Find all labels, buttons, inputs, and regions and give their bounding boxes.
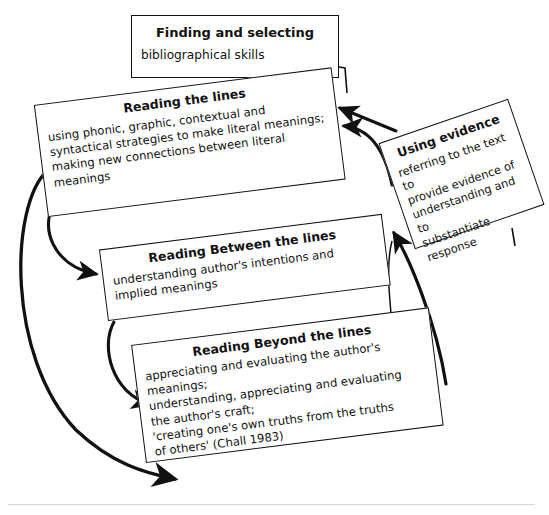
node-body: bibliographical skills bbox=[141, 47, 329, 63]
node-finding-and-selecting[interactable]: Finding and selecting bibliographical sk… bbox=[131, 15, 339, 78]
connector-finding-to-lines bbox=[339, 67, 347, 93]
node-title: Finding and selecting bbox=[141, 25, 329, 41]
footer-rule bbox=[8, 504, 535, 505]
